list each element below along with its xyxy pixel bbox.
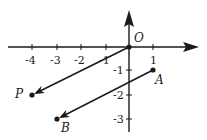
y-tick-label: -1 [113, 64, 124, 77]
label-B: B [60, 121, 70, 135]
point-B [54, 116, 59, 121]
point-P [29, 92, 34, 97]
coordinate-diagram: -4 -3 -2 -1 1 -1 -2 -3 O P A B [0, 0, 207, 140]
point-A [150, 67, 155, 72]
y-tick-label: -3 [113, 113, 124, 126]
x-tick-label: -3 [50, 54, 61, 67]
x-tick-label: 1 [150, 54, 157, 67]
label-O: O [134, 31, 144, 45]
x-axis [8, 42, 199, 52]
label-A: A [154, 73, 164, 87]
x-tick-label: -2 [74, 54, 85, 67]
vector-AB [61, 70, 153, 117]
label-P: P [14, 87, 24, 101]
y-axis [124, 10, 134, 132]
point-O [126, 44, 131, 49]
y-tick-label: -2 [113, 89, 124, 102]
x-tick-label: -4 [25, 54, 36, 67]
